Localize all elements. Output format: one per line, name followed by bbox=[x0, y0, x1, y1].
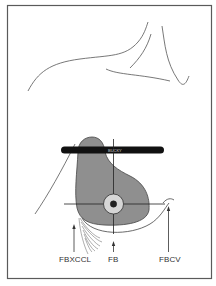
target-inner-ring bbox=[110, 201, 116, 207]
clavicle-contour-line bbox=[106, 69, 170, 81]
label-fb: FB bbox=[108, 255, 118, 264]
trapezius-contour-line bbox=[162, 26, 189, 84]
shoulder-contour-line bbox=[28, 22, 148, 91]
torso-contour-line bbox=[35, 144, 75, 214]
fbcv-curve-tip bbox=[163, 199, 174, 203]
fb-arrow bbox=[112, 241, 115, 252]
label-fbcv: FBCV bbox=[159, 255, 181, 264]
diagram-frame bbox=[8, 6, 212, 279]
bucky-label: BUCKY bbox=[108, 148, 122, 153]
fbxccl-arrow bbox=[72, 224, 75, 252]
fbcv-arrow bbox=[167, 206, 170, 252]
diagram-canvas bbox=[0, 0, 216, 286]
label-fbxccl: FBXCCL bbox=[59, 255, 91, 264]
